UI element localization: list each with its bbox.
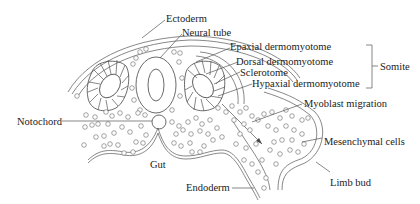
label-somite: Somite (380, 61, 410, 72)
gut-endoderm (88, 128, 260, 200)
neural-tube (136, 57, 176, 113)
label-endoderm: Endoderm (186, 182, 230, 193)
label-epaxial-dermomyotome: Epaxial dermomyotome (230, 41, 332, 52)
label-neural-tube: Neural tube (182, 27, 232, 38)
label-dorsal-dermomyotome: Dorsal dermomyotome (236, 56, 333, 67)
label-gut: Gut (150, 159, 166, 170)
embryo-cross-section-diagram: Ectoderm Neural tube Epaxial dermomyotom… (0, 0, 420, 204)
label-sclerotome: Sclerotome (240, 67, 288, 78)
label-ectoderm: Ectoderm (166, 13, 207, 24)
notochord (152, 115, 166, 129)
label-hypaxial-dermomyotome: Hypaxial dermomyotome (252, 78, 360, 89)
labels: Ectoderm Neural tube Epaxial dermomyotom… (17, 13, 410, 193)
label-notochord: Notochord (17, 116, 63, 127)
label-myoblast-migration: Myoblast migration (304, 98, 388, 109)
label-limb-bud: Limb bud (330, 177, 372, 188)
label-mesenchymal-cells: Mesenchymal cells (324, 136, 405, 147)
